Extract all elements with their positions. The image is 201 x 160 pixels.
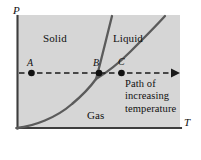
temperature-axis-label: T	[184, 117, 190, 129]
point-marker-c	[118, 70, 125, 77]
point-label-c: C	[118, 57, 125, 68]
region-label-gas: Gas	[87, 110, 104, 122]
point-label-b: B	[93, 58, 99, 69]
path-annotation-label: Path of increasing temperature	[125, 78, 187, 115]
point-marker-a	[28, 70, 35, 77]
phase-diagram-figure: P T Solid Liquid Gas A B C Path of incre…	[0, 0, 201, 160]
region-label-liquid: Liquid	[113, 33, 143, 45]
point-marker-b	[96, 70, 103, 77]
point-label-a: A	[27, 58, 33, 69]
pressure-axis-label: P	[13, 5, 20, 17]
region-label-solid: Solid	[43, 33, 67, 45]
